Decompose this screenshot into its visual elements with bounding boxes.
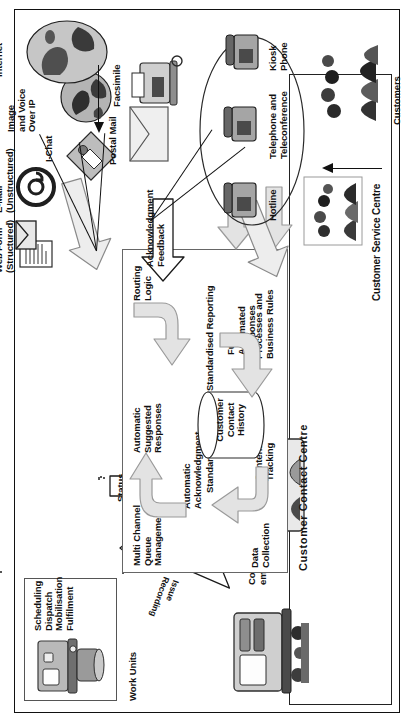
contact-centre-rect xyxy=(100,476,102,478)
service-centre-crowd-art xyxy=(300,171,370,251)
hotline-label: Hotline xyxy=(268,161,279,221)
curved-arrow-content-to-acknowledgment xyxy=(208,459,274,531)
curved-arrow-automated-to-content xyxy=(214,325,278,403)
kiosk-phone-icon xyxy=(224,27,264,73)
internet-arrowhead xyxy=(93,121,105,133)
customers-to-service-arrowhead xyxy=(322,162,334,174)
web-form-icon xyxy=(12,217,58,269)
customers-to-internet-line xyxy=(98,65,99,125)
email-icon xyxy=(14,165,58,209)
node-automatic-suggested-responses: Automatic Suggested Responses xyxy=(132,373,164,453)
customers-to-service-line xyxy=(330,168,382,169)
council-employees-art xyxy=(222,594,312,699)
internet-label: Internet xyxy=(0,17,5,77)
customers-art xyxy=(312,41,384,125)
contact-centre-main-panel xyxy=(103,477,105,479)
curved-arrow-suggested-to-automated xyxy=(128,293,194,369)
contact-centre-box xyxy=(98,478,100,480)
kiosk-phone-label: Kiosk Phone xyxy=(268,15,289,71)
postal-mail-icon xyxy=(128,105,170,163)
telephone-teleconference-icon xyxy=(222,99,262,145)
customer-service-centre-title: Customer Service Centre xyxy=(372,131,383,301)
facsimile-label: Facsimile xyxy=(112,37,123,107)
facsimile-icon xyxy=(130,51,186,109)
work-units-box-lines: Scheduling Dispatch Mobilisation Fulfilm… xyxy=(33,579,75,631)
customer-contact-centre-box xyxy=(0,571,2,573)
work-unit-machine-art xyxy=(28,635,110,695)
curved-arrow-queue-to-suggested xyxy=(128,449,190,525)
diagram-canvas: Scheduling Dispatch Mobilisation Fulfilm… xyxy=(0,0,411,721)
hotline-phone-icon xyxy=(222,175,262,221)
acknowledgment-feedback-label: Acknowledgment Feedback xyxy=(145,147,166,267)
customers-label: Customers xyxy=(392,45,403,125)
work-units-title: Work Units xyxy=(128,621,139,701)
diagram-rotator: Scheduling Dispatch Mobilisation Fulfilm… xyxy=(0,0,411,721)
customer-contact-centre-title: Customer Contact Centre xyxy=(297,311,309,571)
